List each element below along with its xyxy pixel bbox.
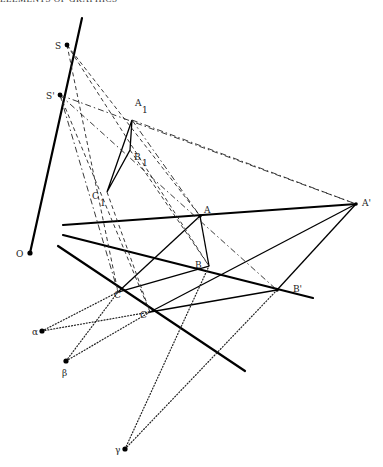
proj-a1-a-prime (132, 120, 356, 204)
proj-s-a (67, 45, 200, 216)
point-a-prime (354, 202, 358, 206)
label-b1: B (134, 152, 141, 162)
proj-s-c (67, 45, 118, 292)
point-o (27, 250, 32, 255)
segment-b-prime-c-prime (150, 290, 277, 312)
label-c-prime: C' (140, 310, 149, 320)
label-s-prime: S' (46, 91, 55, 101)
label-alpha: α (32, 327, 38, 337)
segment-a-prime-c-prime (150, 204, 356, 312)
label-a1: A (134, 98, 142, 108)
label-b: B (195, 260, 202, 270)
label-o: O (16, 249, 23, 259)
triangle-a1b1c1 (107, 120, 132, 192)
label-b-prime: B' (293, 284, 302, 294)
dot-beta-c (66, 292, 118, 361)
point-beta (63, 358, 68, 363)
geometry-diagram: S S' O A 1 B 1 C 1 A B C C' A' B' α β γ (0, 0, 383, 467)
segment-a-prime-b-prime (277, 204, 356, 290)
label-c1: C (92, 191, 99, 201)
proj-s-prime-c (60, 95, 118, 292)
label-beta: β (62, 368, 67, 378)
label-a-prime: A' (361, 198, 371, 208)
point-a (198, 214, 202, 218)
label-c1-sub: 1 (100, 198, 106, 208)
label-c: C (114, 290, 121, 300)
label-a: A (203, 205, 211, 215)
label-b1-sub: 1 (142, 158, 148, 168)
label-gamma: γ (115, 445, 120, 455)
label-s: S (55, 41, 61, 51)
point-s-prime (58, 93, 63, 98)
point-b-prime (275, 288, 279, 292)
line-through-b (63, 235, 313, 298)
point-s (65, 43, 70, 48)
label-a1-sub: 1 (142, 105, 148, 115)
dot-gamma-b (125, 266, 209, 449)
point-alpha (39, 328, 44, 333)
point-gamma (122, 446, 127, 451)
axis-line-o (30, 18, 82, 253)
dot-alpha-c (42, 292, 118, 331)
